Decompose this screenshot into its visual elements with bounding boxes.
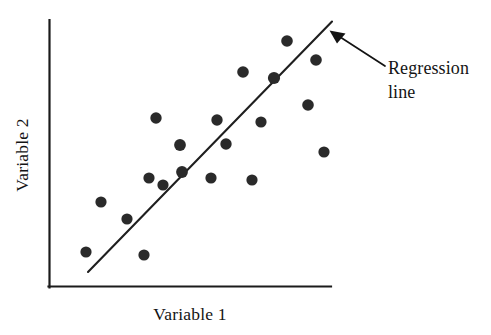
data-point (246, 174, 257, 185)
data-point (220, 138, 231, 149)
data-point (211, 114, 222, 125)
figure-background (0, 0, 491, 335)
data-point (281, 35, 293, 47)
data-point (205, 172, 216, 183)
data-point (237, 66, 249, 78)
data-point (138, 249, 149, 260)
data-point (121, 213, 132, 224)
data-point (176, 166, 188, 178)
data-point (80, 246, 91, 257)
data-point (268, 72, 280, 84)
data-point (174, 139, 186, 151)
data-point (95, 196, 106, 207)
data-point (302, 99, 314, 111)
data-point (150, 112, 161, 123)
y-axis-label: Variable 2 (12, 118, 32, 191)
annotation-line-1: Regression (388, 58, 469, 78)
data-point (157, 179, 168, 190)
scatter-plot-figure: Regression line Variable 1 Variable 2 (0, 0, 491, 335)
data-point (255, 116, 266, 127)
data-point (318, 146, 329, 157)
annotation-line-2: line (388, 82, 415, 102)
data-point (310, 54, 322, 66)
x-axis-label: Variable 1 (153, 304, 226, 324)
data-point (143, 172, 154, 183)
